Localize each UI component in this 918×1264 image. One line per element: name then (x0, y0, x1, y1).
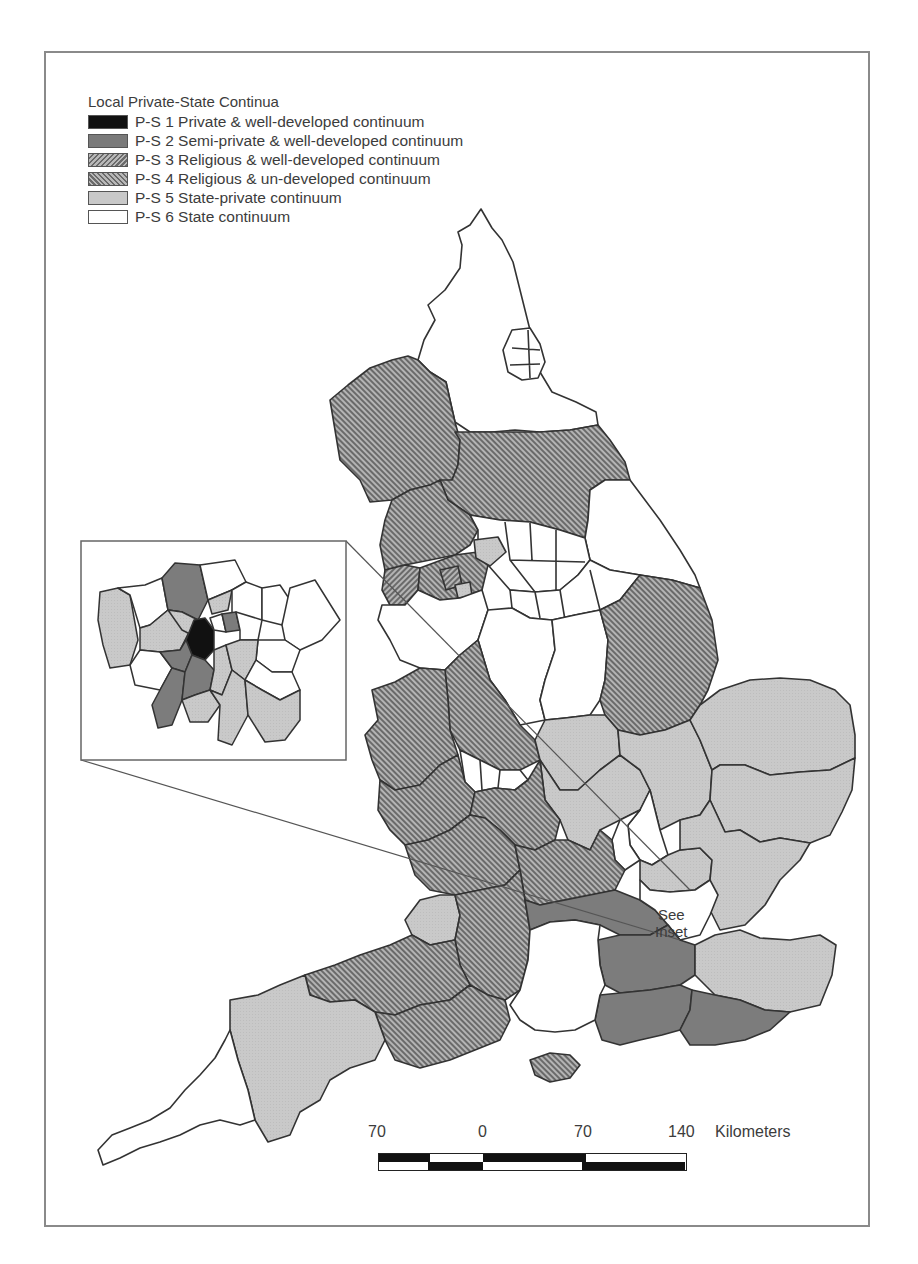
scale-unit-label: Kilometers (715, 1123, 791, 1141)
legend-label: P-S 2 Semi-private & well-developed cont… (135, 132, 463, 150)
scale-tick-label: 0 (478, 1123, 487, 1141)
swatch-white (88, 210, 128, 224)
swatch-solid-dark-grey (88, 134, 128, 148)
legend-label: P-S 5 State-private continuum (135, 189, 342, 207)
map-legend: Local Private-State Continua P-S 1 Priva… (88, 93, 463, 226)
see-inset-line1: See (655, 906, 688, 923)
scale-labels: 70 0 70 140 Kilometers (378, 1123, 838, 1145)
london-inset (81, 541, 346, 760)
legend-item-ps3: P-S 3 Religious & well-developed continu… (88, 150, 463, 169)
legend-title: Local Private-State Continua (88, 93, 463, 111)
swatch-backward-hatch (88, 172, 128, 186)
scale-row-bottom (379, 1162, 686, 1170)
see-inset-line2: Inset (655, 923, 688, 940)
legend-item-ps1: P-S 1 Private & well-developed continuum (88, 112, 463, 131)
region-cornwall (98, 1030, 255, 1165)
scale-bar-graphic (378, 1153, 687, 1171)
scale-bar: 70 0 70 140 Kilometers (378, 1123, 838, 1145)
scale-tick-label: 140 (668, 1123, 695, 1141)
legend-item-ps2: P-S 2 Semi-private & well-developed cont… (88, 131, 463, 150)
legend-label: P-S 4 Religious & un-developed continuum (135, 170, 431, 188)
legend-label: P-S 1 Private & well-developed continuum (135, 113, 424, 131)
swatch-forward-hatch (88, 153, 128, 167)
legend-item-ps6: P-S 6 State continuum (88, 207, 463, 226)
scale-tick-label: 70 (368, 1123, 386, 1141)
region-tyneside (503, 328, 545, 380)
swatch-solid-black (88, 115, 128, 129)
region-west-sussex (595, 985, 692, 1045)
swatch-light-grey (88, 191, 128, 205)
legend-item-ps5: P-S 5 State-private continuum (88, 188, 463, 207)
scale-tick-label: 70 (574, 1123, 592, 1141)
legend-label: P-S 6 State continuum (135, 208, 290, 226)
scale-row-top (379, 1154, 686, 1162)
legend-label: P-S 3 Religious & well-developed continu… (135, 151, 440, 169)
region-norfolk (690, 678, 855, 775)
legend-item-ps4: P-S 4 Religious & un-developed continuum (88, 169, 463, 188)
region-isle-of-wight (530, 1053, 580, 1082)
see-inset-label: See Inset (655, 906, 688, 940)
